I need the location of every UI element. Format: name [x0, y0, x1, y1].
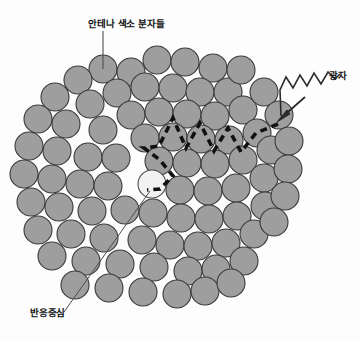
diagram-canvas	[0, 0, 360, 341]
pigment-circle	[38, 242, 66, 270]
pigment-circle	[199, 54, 227, 82]
pigment-circle	[76, 90, 104, 118]
pigment-circle	[43, 137, 71, 165]
pigment-circle	[167, 204, 195, 232]
pigment-circle	[90, 224, 118, 252]
label-antenna-pigment-molecules: 안테나 색소 분자들	[88, 19, 165, 29]
pigment-circle	[173, 149, 201, 177]
pigment-circle	[131, 73, 159, 101]
pigment-circle	[24, 216, 52, 244]
pigment-circle	[78, 197, 106, 225]
pigment-circle	[102, 144, 130, 172]
label-photon: 광자	[329, 71, 347, 81]
pigment-circle	[143, 46, 171, 74]
pigment-circle	[10, 160, 38, 188]
pigment-circle	[145, 98, 173, 126]
pigment-circle	[140, 253, 168, 281]
pigment-circle	[260, 208, 288, 236]
pigment-circle	[275, 127, 303, 155]
pigment-circle	[15, 132, 43, 160]
pigment-circle	[217, 269, 245, 297]
pigment-circle	[227, 56, 255, 84]
pigment-circle	[163, 280, 191, 308]
pigment-circle	[271, 182, 299, 210]
pigment-circle	[95, 274, 123, 302]
pigment-circle	[74, 143, 102, 171]
pigment-circle	[166, 176, 194, 204]
reaction-center-circle	[138, 170, 166, 198]
pigment-circle	[129, 278, 157, 306]
pigment-circle	[57, 220, 85, 248]
pigment-circle	[201, 150, 229, 178]
pigment-circle	[52, 110, 80, 138]
pigment-circle	[111, 196, 139, 224]
pigment-circle	[128, 226, 156, 254]
pigment-circle	[159, 74, 187, 102]
pigment-circle	[24, 105, 52, 133]
pigment-circle	[222, 174, 250, 202]
pigment-circle	[194, 177, 222, 205]
pigment-circle	[17, 188, 45, 216]
pigment-circle	[171, 48, 199, 76]
pigment-circle	[89, 116, 117, 144]
pigment-circle	[38, 165, 66, 193]
pigment-circle	[187, 125, 215, 153]
pigment-circle	[195, 205, 223, 233]
pigment-circle	[274, 155, 302, 183]
pigment-circle	[184, 232, 212, 260]
pigment-circle	[45, 193, 73, 221]
pigment-circle	[139, 199, 167, 227]
pigment-circle	[94, 172, 122, 200]
pigment-circle	[61, 271, 89, 299]
photosynthesis-antenna-diagram: 안테나 색소 분자들 광자 반응중심	[0, 0, 360, 341]
pigment-circle	[66, 170, 94, 198]
label-reaction-center: 반응중심	[30, 308, 65, 318]
pigment-circle	[191, 277, 219, 305]
